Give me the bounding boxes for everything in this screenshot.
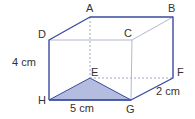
dimension-length-label: 5 cm (70, 102, 94, 114)
vertex-label-f: F (177, 66, 184, 78)
edge-cg (131, 40, 132, 100)
edge-cb (132, 17, 173, 40)
vertex-label-h: H (38, 94, 46, 106)
shaded-triangle-ehg (49, 78, 131, 100)
vertex-label-d: D (38, 28, 46, 40)
dimension-height-label: 4 cm (12, 56, 36, 68)
vertex-label-e: E (91, 66, 98, 78)
cuboid-diagram: A B C D E F G H 4 cm 5 cm 2 cm (0, 0, 195, 119)
vertex-label-g: G (126, 103, 135, 115)
outline-edges (49, 17, 173, 100)
vertex-label-a: A (86, 2, 94, 14)
cuboid-svg: A B C D E F G H 4 cm 5 cm 2 cm (0, 0, 195, 119)
dimension-width-label: 2 cm (156, 85, 180, 97)
vertex-label-c: C (124, 27, 132, 39)
vertex-label-b: B (168, 2, 175, 14)
